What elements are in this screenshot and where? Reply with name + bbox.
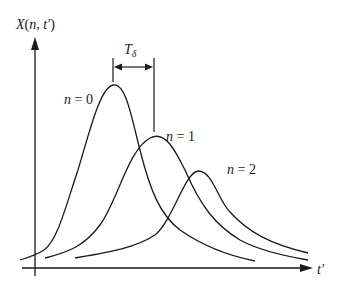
label-n0: n = 0	[64, 92, 93, 107]
arrow-left-icon	[114, 64, 122, 71]
curve-n0	[20, 85, 255, 261]
label-n1: n = 1	[166, 129, 195, 144]
x-axis-label: t′	[317, 262, 325, 277]
diagram-canvas: X(n, t′) Tδ n = 0 n = 1 n = 2 t′	[0, 0, 339, 293]
label-n2: n = 2	[227, 162, 256, 177]
y-axis-arrow-icon	[31, 37, 39, 50]
x-axis	[22, 264, 313, 272]
y-axis	[31, 37, 39, 276]
diagram-svg: X(n, t′) Tδ n = 0 n = 1 n = 2 t′	[0, 0, 339, 293]
arrow-right-icon	[145, 64, 153, 71]
curve-n1	[45, 136, 308, 260]
delay-marker	[113, 58, 154, 132]
x-axis-arrow-icon	[300, 264, 313, 272]
delay-label: Tδ	[124, 42, 137, 59]
y-axis-label: X(n, t′)	[15, 17, 55, 33]
